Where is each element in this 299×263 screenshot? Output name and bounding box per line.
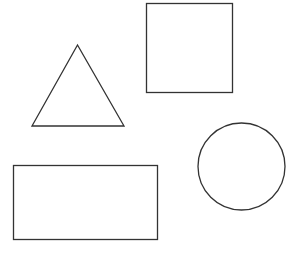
triangle-shape [32, 45, 124, 126]
rectangle-shape [14, 166, 158, 240]
circle-shape [198, 123, 285, 210]
shapes-canvas [0, 0, 299, 263]
square-shape [147, 4, 233, 93]
